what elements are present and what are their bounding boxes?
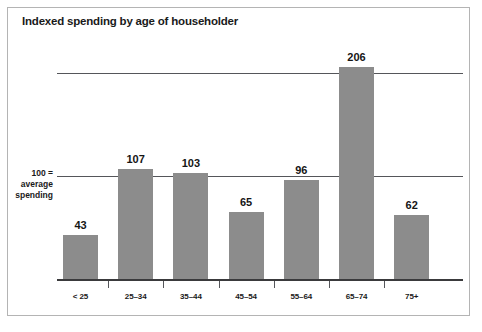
bar-value-65-74: 206 (327, 51, 387, 63)
bar-value-35-44: 103 (161, 157, 221, 169)
bar-value-25-34: 107 (106, 153, 166, 165)
category-label-45-54: 45–54 (216, 292, 276, 301)
bar-55-64 (284, 180, 319, 279)
category-label-35-44: 35–44 (161, 292, 221, 301)
bar-65-74 (339, 67, 374, 279)
category-label-75-plus: 75+ (382, 292, 442, 301)
axis-tick (163, 281, 164, 288)
bar-value-75-plus: 62 (382, 199, 442, 211)
bar-25-34 (118, 169, 153, 279)
bar-value-lt-25: 43 (51, 219, 111, 231)
bar-35-44 (173, 173, 208, 279)
axis-tick (274, 281, 275, 288)
bar-45-54 (229, 212, 264, 279)
axis-tick (108, 281, 109, 288)
plot-area: 43 107 103 65 96 206 62 < 25 25–34 35–44… (0, 0, 482, 332)
category-label-25-34: 25–34 (106, 292, 166, 301)
axis-tick (384, 281, 385, 288)
bar-lt-25 (63, 235, 98, 279)
category-label-65-74: 65–74 (327, 292, 387, 301)
axis-tick (219, 281, 220, 288)
bar-75-plus (394, 215, 429, 279)
bar-value-55-64: 96 (271, 164, 331, 176)
category-label-lt-25: < 25 (51, 292, 111, 301)
x-axis-line (57, 279, 463, 281)
bar-value-45-54: 65 (216, 196, 276, 208)
axis-tick (329, 281, 330, 288)
chart-figure: Indexed spending by age of householder 1… (0, 0, 482, 332)
category-label-55-64: 55–64 (271, 292, 331, 301)
gridline-200 (57, 73, 463, 74)
